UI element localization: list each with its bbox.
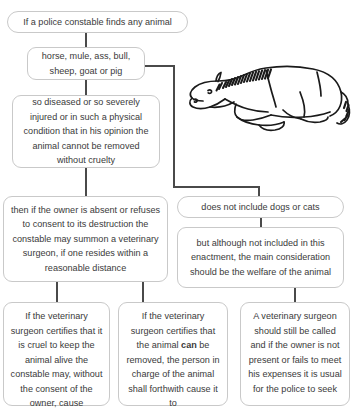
- node-can-removed-label: If the veterinary surgeon certifies that…: [124, 309, 222, 411]
- node-condition: so diseased or so severely injured or in…: [12, 95, 160, 168]
- connector-owner-absent-to-can-removed: [142, 282, 144, 302]
- node-can-removed-text-after: be removed, the person in charge of the …: [126, 340, 219, 408]
- node-can-removed: If the veterinary surgeon certifies that…: [118, 302, 228, 406]
- connector-owner-absent-to-cruel-keep: [56, 282, 58, 302]
- connector-condition-to-owner-absent: [85, 168, 87, 197]
- node-should-called-label: A veterinary surgeon should still be cal…: [246, 309, 344, 396]
- node-can-removed-emphasis: can: [181, 340, 197, 350]
- connector-species-to-condition: [85, 80, 87, 95]
- node-welfare: but although not included in this enactm…: [177, 227, 344, 288]
- node-finds-animal: If a police constable finds any animal: [7, 11, 188, 33]
- node-finds-animal-label: If a police constable finds any animal: [13, 15, 182, 30]
- node-should-called: A veterinary surgeon should still be cal…: [240, 302, 350, 406]
- connector-finds-animal-to-species: [85, 33, 87, 47]
- node-species: horse, mule, ass, bull, sheep, goat or p…: [27, 47, 145, 80]
- node-owner-absent: then if the owner is absent or refuses t…: [3, 196, 168, 282]
- node-cruel-keep-label: If the veterinary surgeon certifies that…: [9, 309, 104, 411]
- node-not-dogs-cats-label: does not include dogs or cats: [183, 200, 338, 215]
- node-species-label: horse, mule, ass, bull, sheep, goat or p…: [33, 49, 139, 78]
- connector-welfare-to-should-called: [294, 288, 296, 302]
- connector-species-elbow-top: [145, 65, 175, 67]
- connector-species-elbow-vertical: [173, 65, 175, 188]
- node-not-dogs-cats: does not include dogs or cats: [177, 196, 344, 218]
- horse-lying-down-icon: [180, 52, 354, 132]
- connector-species-elbow-bottom: [173, 186, 260, 188]
- node-condition-label: so diseased or so severely injured or in…: [18, 95, 154, 168]
- node-cruel-keep: If the veterinary surgeon certifies that…: [3, 302, 110, 406]
- node-owner-absent-label: then if the owner is absent or refuses t…: [9, 203, 162, 276]
- node-welfare-label: but although not included in this enactm…: [183, 236, 338, 280]
